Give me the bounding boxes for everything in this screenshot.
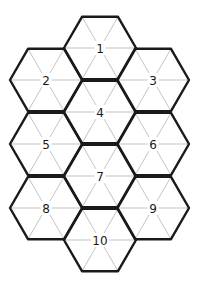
hex-number-label: 1 bbox=[96, 42, 104, 56]
hex-number-label: 2 bbox=[42, 74, 50, 88]
hex-number-label: 6 bbox=[149, 138, 157, 152]
hex-number-label: 8 bbox=[42, 202, 50, 216]
hex-layer: 12345678910 bbox=[10, 17, 189, 271]
hex-number-label: 4 bbox=[96, 106, 104, 120]
hex-grid-diagram: 12345678910 bbox=[0, 0, 204, 292]
hex-number-label: 10 bbox=[92, 234, 107, 248]
hex-number-label: 3 bbox=[149, 74, 157, 88]
hex-number-label: 9 bbox=[149, 202, 157, 216]
hex-number-label: 7 bbox=[96, 170, 104, 184]
hex-number-label: 5 bbox=[42, 138, 50, 152]
